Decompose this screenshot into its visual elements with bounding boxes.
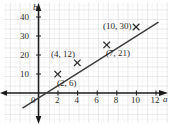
- coordinate-graph: 40 30 20 10 0 2 4 6 8 10 12 b a (2, 6) (…: [0, 0, 171, 125]
- y-axis-label: b: [33, 3, 38, 12]
- x-tick-label-4: 4: [75, 96, 80, 105]
- x-tick-label-6: 6: [94, 96, 99, 105]
- y-tick-label-20: 20: [20, 51, 29, 60]
- x-tick-label-8: 8: [114, 96, 119, 105]
- y-tick-label-40: 40: [20, 13, 29, 22]
- point-label-10-30: (10, 30): [103, 22, 132, 31]
- point-label-4-12: (4, 12): [51, 50, 75, 59]
- point-label-7-21: (7, 21): [106, 49, 130, 58]
- origin-label: 0: [31, 96, 36, 105]
- x-tick-label-12: 12: [151, 96, 160, 105]
- y-tick-label-10: 10: [20, 70, 29, 79]
- y-tick-label-30: 30: [20, 32, 29, 41]
- x-tick-label-2: 2: [55, 96, 60, 105]
- x-tick-label-10: 10: [131, 96, 140, 105]
- point-label-2-6: (2, 6): [57, 79, 77, 88]
- x-axis-label: a: [163, 95, 168, 104]
